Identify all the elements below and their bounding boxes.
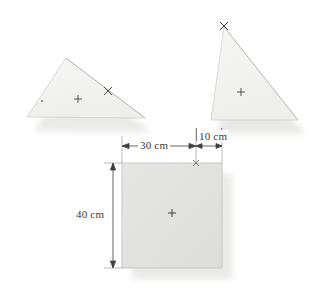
dimension-label-40cm: 40 cm [74,208,106,220]
left-triangle-dot-mark [41,100,43,102]
rectangle-group[interactable] [122,160,222,268]
dimension-label-30cm: 30 cm [138,139,170,151]
left-triangle-group[interactable] [27,58,145,118]
right-triangle-group[interactable] [211,22,298,120]
dimension-label-10cm: 10 cm [197,130,229,142]
arrowhead-40cm-bottom [110,261,115,268]
arrowhead-10cm-left [196,144,202,149]
right-triangle[interactable] [211,27,298,120]
arrowhead-40cm-top [110,163,115,170]
figure-container: 30 cm 10 cm 40 cm [0,0,322,300]
arrowhead-30cm-left [122,143,129,148]
arrowhead-10cm-right [216,144,222,149]
left-triangle[interactable] [27,58,145,118]
